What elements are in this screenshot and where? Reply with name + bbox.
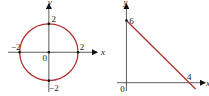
circle-chart: xy−222−20 <box>8 0 105 93</box>
data-point <box>125 19 128 22</box>
data-point <box>48 23 51 26</box>
y-tick-label: 2 <box>52 14 57 24</box>
y-axis-label: y <box>122 0 127 7</box>
x-axis-label: x <box>205 78 209 88</box>
origin-label: 0 <box>120 84 125 94</box>
x-tick-label: −2 <box>11 42 21 52</box>
data-point <box>48 51 51 54</box>
figure: xy−222−20 xy460 <box>0 0 209 96</box>
x-tick-label: 4 <box>187 72 192 82</box>
line-chart: xy460 <box>117 0 209 94</box>
y-axis-label: y <box>47 0 52 7</box>
x-tick-label: 2 <box>80 42 85 52</box>
x-axis-label: x <box>100 47 105 57</box>
y-tick-label: 6 <box>129 16 134 26</box>
y-tick-label: −2 <box>49 83 59 93</box>
origin-label: 0 <box>43 53 48 63</box>
line-series <box>126 21 195 89</box>
data-point <box>48 79 51 82</box>
